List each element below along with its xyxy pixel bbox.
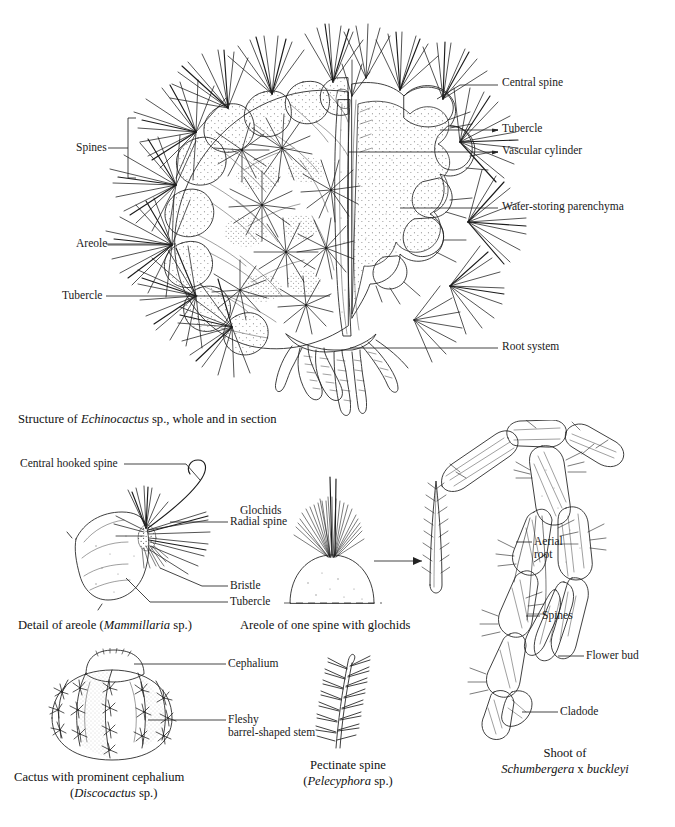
label-fleshy-stem-line1: Fleshy [228,713,259,726]
caption-schlumbergera-epithet: buckleyi [587,762,629,776]
spines-bracket [108,118,136,178]
caption-schlumbergera-genus: Schumbergera [501,762,574,776]
label-spines-schlumbergera: Spines [542,609,573,622]
caption-schlumbergera-cross: x [574,762,587,776]
caption-mammillaria-after: sp.) [170,618,192,632]
caption-pectinate-line1: Pectinate spine [278,758,418,773]
label-aerial-root-line2: root [534,548,553,561]
caption-pectinate-line2: (Pelecyphora sp.) [278,774,418,789]
schlumbergera-leaders [516,542,584,712]
label-central-hooked-spine: Central hooked spine [20,457,118,470]
caption-echinocactus: Structure of Echinocactus sp., whole and… [18,412,276,427]
caption-schlumbergera-line2: Schumbergera x buckleyi [460,762,670,777]
caption-glochids: Areole of one spine with glochids [240,618,410,633]
glochid-drawing [250,475,450,620]
schlumbergera-drawing [430,420,675,740]
caption-discocactus-line1: Cactus with prominent cephalium [14,770,184,785]
caption-discocactus-paren-close: sp.) [136,786,158,800]
label-flower-bud: Flower bud [586,649,639,662]
cladode-segments [441,420,623,740]
label-spines-left: Spines [76,141,107,154]
magnify-arrow [374,557,422,565]
illustration-plate: Spines Areole Tubercle Central spine Tub… [0,0,675,827]
label-tubercle-right: Tubercle [502,122,542,135]
label-tubercle-left: Tubercle [62,289,102,302]
caption-pectinate-paren-close: sp.) [371,774,393,788]
pectinate-spine-drawing [290,648,400,753]
caption-echinocactus-genus: Echinocactus [81,412,149,426]
label-cladode: Cladode [560,705,598,718]
label-central-spine: Central spine [502,76,563,89]
caption-schlumbergera-line1: Shoot of [460,746,670,761]
root-system-drawing [275,334,408,415]
glochid-tuft [294,497,364,557]
mammillaria-drawing [10,450,260,620]
label-aerial-root-line1: Aerial [534,535,563,548]
label-vascular-cylinder: Vascular cylinder [502,144,582,157]
label-glochids: Glochids [240,504,282,517]
label-areole-left: Areole [76,237,107,250]
shoot-spines [450,420,608,694]
caption-mammillaria: Detail of areole (Mammillaria sp.) [18,618,192,633]
central-hooked-spine-drawing [148,460,205,528]
label-cephalium: Cephalium [228,657,278,670]
caption-discocactus-genus: Discocactus [74,786,136,800]
caption-mammillaria-before: Detail of areole ( [18,618,104,632]
caption-echinocactus-before: Structure of [18,412,81,426]
label-root-system: Root system [502,340,559,353]
cactus-body-sectioned-half [335,83,492,337]
caption-pectinate-genus: Pelecyphora [307,774,371,788]
areole-spine-cluster [114,486,210,574]
caption-echinocactus-after: sp., whole and in section [149,412,277,426]
caption-mammillaria-genus: Mammillaria [104,618,170,632]
caption-discocactus-line2: (Discocactus sp.) [70,786,157,801]
label-water-storing-parenchyma: Water-storing parenchyma [502,200,624,213]
discocactus-drawing [30,648,260,763]
